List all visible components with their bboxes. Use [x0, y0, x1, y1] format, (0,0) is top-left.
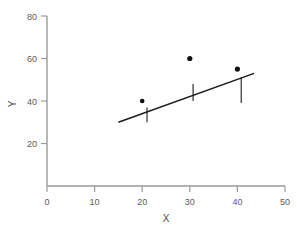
- x-tick-label-50: 50: [280, 197, 290, 207]
- data-point-2: [187, 56, 192, 61]
- error-bars-group: [147, 78, 241, 123]
- y-tick-label-80: 80: [27, 12, 37, 22]
- chart-canvas: 80 60 40 20 Y 0 10 20 30 40 50 X: [0, 0, 297, 231]
- regression-line: [118, 73, 254, 122]
- fit-line-group: [118, 73, 254, 122]
- y-tick-label-20: 20: [27, 139, 37, 149]
- y-tick-label-60: 60: [27, 54, 37, 64]
- data-point-1: [140, 99, 145, 104]
- y-tick-label-40: 40: [27, 97, 37, 107]
- x-axis-title: X: [163, 213, 170, 224]
- x-tick-label-20: 20: [137, 197, 147, 207]
- scatter-plot-figure: 80 60 40 20 Y 0 10 20 30 40 50 X: [0, 0, 297, 231]
- x-tick-label-40: 40: [232, 197, 242, 207]
- y-axis: 80 60 40 20 Y: [7, 12, 47, 187]
- x-tick-label-30: 30: [185, 197, 195, 207]
- x-tick-label-0: 0: [44, 197, 49, 207]
- y-axis-title: Y: [7, 100, 18, 107]
- x-axis: 0 10 20 30 40 50 X: [44, 186, 290, 224]
- data-point-3: [235, 67, 240, 72]
- x-tick-label-10: 10: [90, 197, 100, 207]
